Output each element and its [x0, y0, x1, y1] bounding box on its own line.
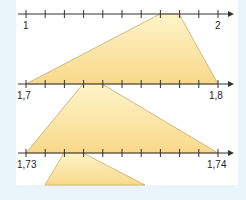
line-3-end-label: 1,74	[207, 160, 226, 170]
zoom-wedge-2	[26, 84, 218, 153]
line-3-start-label: 1,73	[17, 160, 36, 170]
arrow-head-icon	[228, 150, 234, 156]
zoom-wedge-3	[45, 153, 145, 185]
arrow-head-icon	[228, 11, 234, 17]
line-2-end-label: 1,8	[209, 91, 223, 101]
number-line-1	[18, 10, 228, 18]
arrow-head-icon	[228, 81, 234, 87]
line-2-start-label: 1,7	[17, 91, 31, 101]
line-1-end-label: 2	[215, 21, 221, 31]
zoom-wedge-1	[26, 14, 218, 84]
line-1-start-label: 1	[23, 21, 29, 31]
